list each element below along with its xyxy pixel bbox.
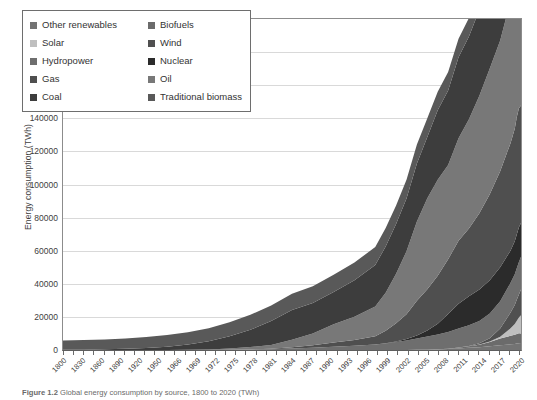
- energy-consumption-figure: Energy consumption (TWh) 200000180000160…: [0, 0, 537, 400]
- x-axis-tick-labels: 1800183018601890192019501966196919721975…: [0, 356, 537, 386]
- x-axis-tickmark: [154, 351, 155, 355]
- x-axis-tickmark: [63, 351, 64, 355]
- x-axis-tickmark: [509, 351, 510, 355]
- x-axis-tickmark: [134, 351, 135, 355]
- legend-swatch-icon: [30, 76, 37, 83]
- x-axis-tick-label: 2002: [387, 356, 412, 381]
- legend-item-traditional-biomass[interactable]: Traditional biomass: [148, 92, 242, 102]
- x-axis-tickmark: [164, 351, 165, 355]
- x-axis-tickmark: [347, 351, 348, 355]
- legend-item-wind[interactable]: Wind: [148, 38, 242, 48]
- x-axis-tickmark: [418, 351, 419, 355]
- legend-swatch-icon: [30, 40, 37, 47]
- x-axis-tickmark: [195, 351, 196, 355]
- x-axis-tickmark: [225, 351, 226, 355]
- x-axis-tickmark: [306, 351, 307, 355]
- x-axis-tickmark: [468, 351, 469, 355]
- x-axis-tickmark: [205, 351, 206, 355]
- legend-item-other-renewables[interactable]: Other renewables: [30, 20, 142, 30]
- legend-item-label: Oil: [160, 74, 172, 84]
- legend-swatch-icon: [30, 58, 37, 65]
- legend-swatch-icon: [30, 22, 37, 29]
- x-axis-tickmark: [73, 351, 74, 355]
- x-axis-tickmark: [286, 351, 287, 355]
- x-axis-tickmark: [448, 351, 449, 355]
- x-axis-tickmark: [428, 351, 429, 355]
- x-axis-tickmark: [185, 351, 186, 355]
- x-axis-tickmark: [357, 351, 358, 355]
- x-axis-tickmark: [266, 351, 267, 355]
- x-axis-tickmark: [245, 351, 246, 355]
- legend-swatch-icon: [148, 40, 155, 47]
- x-axis-tickmark: [124, 351, 125, 355]
- y-axis-tick-label: 140000: [10, 113, 58, 123]
- x-axis-tickmark: [377, 351, 378, 355]
- figure-caption-label: Figure 1.2: [22, 388, 58, 397]
- legend-item-label: Gas: [42, 74, 59, 84]
- x-axis-tickmark: [337, 351, 338, 355]
- legend-item-hydropower[interactable]: Hydropower: [30, 56, 142, 66]
- x-axis-tick-label: 1966: [158, 356, 183, 381]
- x-axis-tickmark: [387, 351, 388, 355]
- x-axis-tickmark: [296, 351, 297, 355]
- x-axis-tickmark: [367, 351, 368, 355]
- y-axis-tick-label: 120000: [10, 146, 58, 156]
- legend-item-biofuels[interactable]: Biofuels: [148, 20, 242, 30]
- x-axis-tickmark: [215, 351, 216, 355]
- legend-item-label: Nuclear: [160, 56, 193, 66]
- y-axis-tick-label: 40000: [10, 279, 58, 289]
- legend-item-nuclear[interactable]: Nuclear: [148, 56, 242, 66]
- legend-item-label: Solar: [42, 38, 64, 48]
- x-axis-tickmark: [174, 351, 175, 355]
- legend-item-label: Hydropower: [42, 56, 93, 66]
- y-axis-tick-label: 100000: [10, 180, 58, 190]
- y-axis-tick-label: 60000: [10, 246, 58, 256]
- legend-item-coal[interactable]: Coal: [30, 92, 142, 102]
- x-axis-tickmark: [408, 351, 409, 355]
- legend-item-label: Biofuels: [160, 20, 194, 30]
- legend-item-gas[interactable]: Gas: [30, 74, 142, 84]
- chart-legend: Other renewablesBiofuelsSolarWindHydropo…: [22, 10, 251, 112]
- x-axis-tickmark: [397, 351, 398, 355]
- x-axis-tickmark: [489, 351, 490, 355]
- x-axis-tickmark: [326, 351, 327, 355]
- y-axis-tick-label: 80000: [10, 213, 58, 223]
- figure-caption: Figure 1.2 Global energy consumption by …: [22, 388, 522, 397]
- x-axis-tickmark: [478, 351, 479, 355]
- figure-caption-text: Global energy consumption by source, 180…: [60, 388, 259, 397]
- x-axis-tickmark: [104, 351, 105, 355]
- x-axis-tick-label: 1950: [139, 356, 164, 381]
- legend-swatch-icon: [148, 94, 155, 101]
- legend-item-label: Wind: [160, 38, 182, 48]
- x-axis-tickmark: [114, 351, 115, 355]
- x-axis-tickmark: [235, 351, 236, 355]
- x-axis-tickmark: [144, 351, 145, 355]
- x-axis-tickmark: [256, 351, 257, 355]
- legend-item-label: Coal: [42, 92, 62, 102]
- x-axis-tickmark: [438, 351, 439, 355]
- x-axis-tickmark: [519, 351, 520, 355]
- legend-swatch-icon: [30, 94, 37, 101]
- legend-item-label: Traditional biomass: [160, 92, 242, 102]
- x-axis-tick-label: 1999: [368, 356, 393, 381]
- x-axis-tickmark: [276, 351, 277, 355]
- x-axis-tickmark: [458, 351, 459, 355]
- y-axis-zero-label: 0: [10, 345, 58, 355]
- legend-item-label: Other renewables: [42, 20, 117, 30]
- legend-swatch-icon: [148, 58, 155, 65]
- x-axis-tickmark: [316, 351, 317, 355]
- x-axis-tickmark: [499, 351, 500, 355]
- y-axis-tick-label: 20000: [10, 312, 58, 322]
- legend-item-oil[interactable]: Oil: [148, 74, 242, 84]
- x-axis-tickmark: [93, 351, 94, 355]
- legend-swatch-icon: [148, 22, 155, 29]
- legend-item-solar[interactable]: Solar: [30, 38, 142, 48]
- x-axis-tickmark: [83, 351, 84, 355]
- legend-swatch-icon: [148, 76, 155, 83]
